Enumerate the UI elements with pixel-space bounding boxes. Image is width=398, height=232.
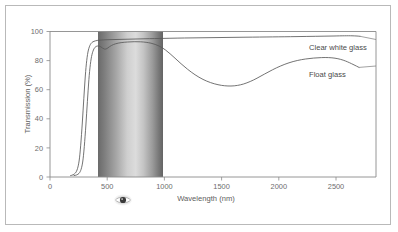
y-axis-ticks xyxy=(47,32,51,178)
series-label-float-glass: Float glass xyxy=(309,70,346,79)
y-tick-label: 40 xyxy=(35,114,43,123)
figure-page: 0 20 40 60 80 100 0 500 1000 1 xyxy=(0,0,398,232)
x-tick-label: 1500 xyxy=(213,182,229,191)
series-label-clear-white-glass: Clear white glass xyxy=(309,43,367,52)
y-tick-label: 20 xyxy=(35,144,43,153)
transmission-chart: 0 20 40 60 80 100 0 500 1000 1 xyxy=(0,0,398,232)
leader-line-clear-white-glass xyxy=(360,36,376,39)
visible-spectrum-band xyxy=(98,32,163,178)
eye-icon xyxy=(114,194,133,206)
y-axis-title: Transmission (%) xyxy=(23,74,32,133)
leader-line-float-glass xyxy=(359,66,376,67)
y-tick-label: 80 xyxy=(35,56,43,65)
chart-svg: 0 20 40 60 80 100 0 500 1000 1 xyxy=(0,0,398,232)
x-tick-label: 2500 xyxy=(328,182,344,191)
x-axis-title: Wavelength (nm) xyxy=(177,194,235,203)
y-tick-label: 60 xyxy=(35,85,43,94)
x-tick-label: 2000 xyxy=(271,182,287,191)
x-axis-ticks xyxy=(50,177,336,181)
x-tick-label: 500 xyxy=(101,182,113,191)
x-tick-label: 0 xyxy=(48,182,52,191)
y-tick-label: 100 xyxy=(31,27,43,36)
y-tick-label: 0 xyxy=(39,173,43,182)
x-axis-tick-labels: 0 500 1000 1500 2000 2500 xyxy=(48,182,344,191)
x-tick-label: 1000 xyxy=(156,182,172,191)
y-axis-tick-labels: 0 20 40 60 80 100 xyxy=(31,27,43,182)
